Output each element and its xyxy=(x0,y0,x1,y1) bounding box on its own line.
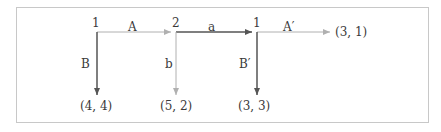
payoff-A-prime: (3, 1) xyxy=(335,26,367,38)
payoff-B: (4, 4) xyxy=(80,100,112,112)
payoff-b: (5, 2) xyxy=(160,100,192,112)
edge-label-B: B xyxy=(81,58,90,70)
node-2-label: 2 xyxy=(172,17,180,29)
edge-label-A: A xyxy=(128,21,137,33)
payoff-B-prime: (3, 3) xyxy=(238,100,270,112)
game-tree-edges xyxy=(0,0,441,132)
edge-label-A-prime: A′ xyxy=(283,21,294,33)
edge-label-B-prime: B′ xyxy=(239,58,251,70)
node-1-label: 1 xyxy=(92,17,100,29)
edge-label-a: a xyxy=(208,21,215,33)
node-3-label: 1 xyxy=(253,17,261,29)
edge-label-b: b xyxy=(165,58,173,70)
